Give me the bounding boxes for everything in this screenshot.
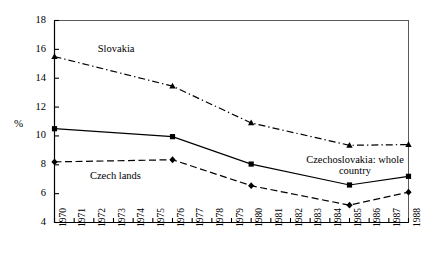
series-label-czechoslovakia-line2: country [306, 165, 404, 177]
x-tick-label: 1973 [118, 208, 128, 227]
x-tick-label: 1986 [373, 208, 383, 227]
x-tick-label: 1970 [59, 208, 69, 227]
series-label-slovakia: Slovakia [98, 43, 135, 55]
x-tick-label: 1983 [314, 208, 324, 227]
y-tick-label: 4 [20, 217, 46, 228]
y-tick-label: 10 [20, 130, 46, 141]
y-tick-label: 14 [20, 73, 46, 84]
x-tick-label: 1975 [157, 208, 167, 227]
x-tick-label: 1984 [334, 208, 344, 227]
x-tick-label: 1985 [354, 208, 364, 227]
y-tick-label: 16 [20, 44, 46, 55]
x-tick-label: 1978 [216, 208, 226, 227]
data-point-czechoslovakia-whole-country-1985 [347, 182, 352, 187]
data-point-czechoslovakia-whole-country-1976 [170, 134, 175, 139]
data-point-czechoslovakia-whole-country-1980 [249, 161, 254, 166]
x-tick-label: 1976 [177, 208, 187, 227]
x-tick-label: 1977 [196, 208, 206, 227]
chart-figure: % 1816141210864 197019711972197319741975… [0, 0, 424, 267]
series-label-czechoslovakia: Czechoslovakia: whole country [306, 154, 404, 178]
series-label-czech-lands: Czech lands [90, 170, 141, 182]
x-tick-label: 1988 [413, 208, 423, 227]
data-point-czechoslovakia-whole-country-1988 [406, 174, 411, 179]
x-tick-label: 1987 [393, 208, 403, 227]
data-point-czechoslovakia-whole-country-1970 [52, 126, 57, 131]
x-tick-label: 1979 [236, 208, 246, 227]
x-tick-label: 1980 [255, 208, 265, 227]
x-tick-label: 1982 [295, 208, 305, 227]
x-tick-label: 1981 [275, 208, 285, 227]
x-tick-label: 1971 [78, 208, 88, 227]
x-tick-label: 1974 [137, 208, 147, 227]
y-tick-label: 18 [20, 15, 46, 26]
y-axis-label: % [14, 118, 23, 129]
y-tick-label: 8 [20, 159, 46, 170]
x-tick-label: 1972 [98, 208, 108, 227]
series-label-czechoslovakia-line1: Czechoslovakia: whole [306, 154, 404, 166]
y-tick-label: 12 [20, 102, 46, 113]
y-tick-label: 6 [20, 188, 46, 199]
